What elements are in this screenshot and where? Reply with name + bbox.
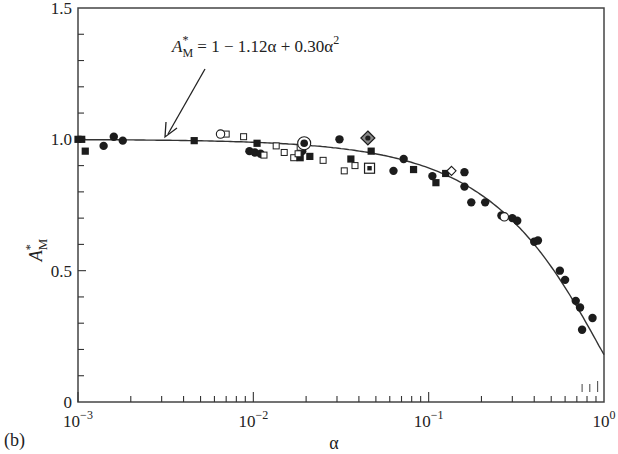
filled-circle-marker: [110, 133, 118, 141]
filled-circle-marker: [428, 172, 436, 180]
open-square-marker: [341, 168, 347, 174]
filled-circle-marker: [513, 217, 521, 225]
filled-circle-marker: [588, 314, 596, 322]
y-axis-title: A*M: [23, 238, 50, 262]
x-tick-exponent: 0: [610, 408, 616, 422]
open-square-marker: [261, 152, 267, 158]
filled-circle-marker: [335, 135, 343, 143]
filled-circle-marker: [576, 303, 584, 311]
filled-square-marker: [253, 140, 260, 147]
filled-circle-marker: [556, 266, 564, 274]
y-title-sub: M: [35, 238, 50, 250]
filled-circle-marker: [460, 182, 468, 190]
filled-square-marker: [410, 166, 417, 173]
lower-right-marks: [582, 381, 598, 392]
filled-circle-marker: [534, 236, 542, 244]
filled-circle-marker: [467, 198, 475, 206]
filled-square-marker: [82, 148, 89, 155]
x-tick-exponent: −3: [80, 408, 93, 422]
ring-center-dot: [300, 139, 308, 147]
data-points: [74, 130, 596, 334]
x-tick-label: 100: [593, 408, 616, 431]
filled-square-marker: [347, 155, 354, 162]
open-square-marker: [281, 149, 287, 155]
equation-label: A*M = 1 − 1.12α + 0.30α2: [171, 33, 339, 60]
filled-square-marker: [368, 148, 375, 155]
filled-circle-marker: [561, 276, 569, 284]
filled-square-marker: [78, 136, 85, 143]
equation-annotation: A*M = 1 − 1.12α + 0.30α2: [165, 33, 339, 137]
plot-frame: [78, 8, 604, 402]
open-square-marker: [273, 143, 279, 149]
open-circle-marker: [216, 130, 224, 138]
open-square-marker: [320, 157, 326, 163]
y-tick-label: 1.0: [51, 130, 72, 149]
filled-square-marker: [432, 179, 439, 186]
y-tick-label: 1.5: [51, 0, 72, 18]
eq-exp: 2: [333, 33, 339, 47]
x-tick-exponent: −1: [431, 408, 444, 422]
filled-circle-marker: [99, 142, 107, 150]
panel-label: (b): [4, 430, 25, 451]
open-square-marker: [352, 163, 358, 169]
eq-star: *: [182, 33, 188, 47]
eq-rhs: = 1 − 1.12α + 0.30α: [193, 37, 333, 56]
filled-circle-marker: [481, 198, 489, 206]
y-tick-label: 0: [64, 393, 73, 412]
filled-circle-marker: [119, 136, 127, 144]
open-circle-marker: [500, 213, 508, 221]
filled-square-marker: [191, 137, 198, 144]
annotation-arrow-line: [168, 69, 205, 134]
chart-canvas: 10−310−210−110000.51.01.5 A*M = 1 − 1.12…: [0, 0, 618, 454]
x-tick-label: 10−2: [238, 408, 268, 431]
plot-border: [78, 8, 604, 402]
boxed-square-center: [367, 166, 371, 170]
filled-square-marker: [306, 153, 313, 160]
filled-circle-marker: [578, 326, 586, 334]
x-tick-exponent: −2: [255, 408, 268, 422]
filled-circle-marker: [389, 167, 397, 175]
eq-sub: M: [182, 46, 193, 60]
x-tick-label: 10−1: [414, 408, 444, 431]
eq-A: A: [171, 37, 183, 56]
x-axis-title: α: [329, 433, 339, 453]
y-tick-label: 0.5: [51, 262, 72, 281]
tick-labels: 10−310−210−110000.51.01.5: [51, 0, 616, 431]
filled-circle-marker: [460, 168, 468, 176]
open-square-marker: [295, 151, 301, 157]
filled-circle-marker: [399, 155, 407, 163]
diamond-center-dot: [365, 135, 370, 140]
open-square-marker: [241, 134, 247, 140]
